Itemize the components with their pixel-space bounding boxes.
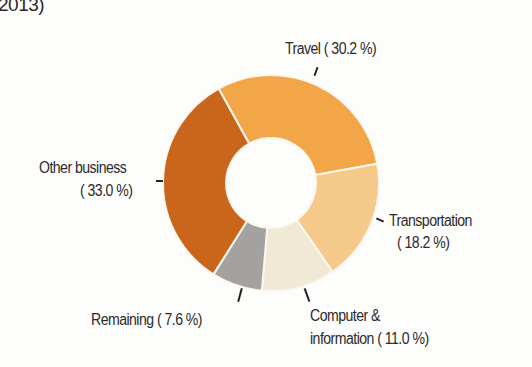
label-transportation-value: ( 18.2 %) (397, 232, 449, 253)
label-other-business: Other business (39, 157, 126, 178)
label-other-business-value: ( 33.0 %) (80, 180, 132, 201)
label-computer-information-value: information ( 11.0 %) (310, 328, 429, 349)
label-transportation: Transportation (389, 210, 472, 231)
donut-slices (163, 75, 379, 291)
label-remaining: Remaining ( 7.6 %) (91, 309, 202, 330)
leader-other-business (156, 180, 163, 182)
slice-travel (219, 75, 378, 175)
label-computer-information: Computer & (310, 305, 380, 326)
label-travel: Travel ( 30.2 %) (285, 38, 376, 59)
